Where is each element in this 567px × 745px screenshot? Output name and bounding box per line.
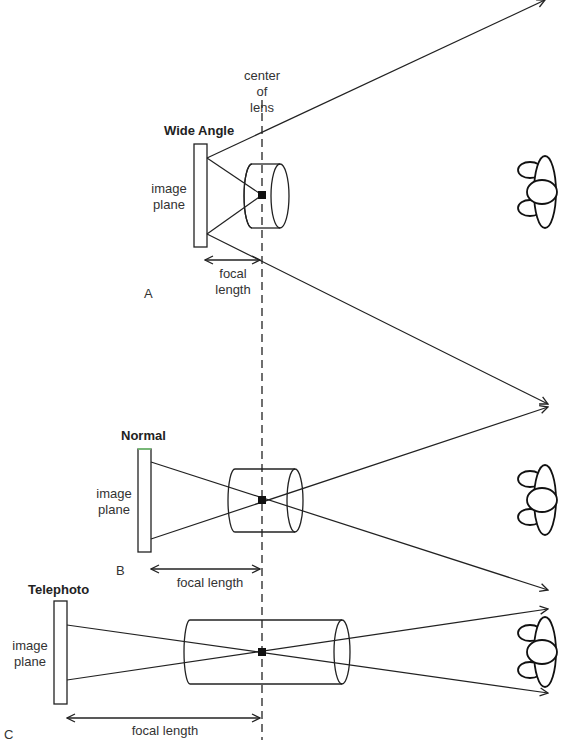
panel-letter-b: B	[116, 563, 125, 578]
panel-title-a: Wide Angle	[164, 123, 234, 138]
center-label-line: center	[237, 68, 287, 84]
lens-center-a	[258, 191, 266, 199]
center-label-line: of	[237, 84, 287, 100]
focal-label-line: focal length	[120, 723, 210, 739]
image-plane-label-line: plane	[6, 654, 54, 670]
panel-letter-a: A	[144, 286, 153, 301]
image-plane-label-line: image	[6, 638, 54, 654]
image-plane-label-c: image plane	[6, 638, 54, 670]
lens-center-c	[258, 648, 266, 656]
image-plane-label-line: plane	[90, 502, 138, 518]
image-plane-label-line: plane	[145, 197, 193, 213]
focal-label-line: focal	[208, 266, 258, 282]
focal-length-label-c: focal length	[120, 723, 210, 739]
wide-angle-panel	[194, 0, 548, 404]
image-plane-label-b: image plane	[90, 486, 138, 518]
image-plane-a	[194, 144, 207, 247]
subject-figure-icon	[518, 156, 557, 228]
subject-figure-icon	[518, 617, 557, 687]
focal-length-label-b: focal length	[165, 575, 255, 591]
image-plane-c	[54, 601, 67, 704]
image-plane-label-line: image	[90, 486, 138, 502]
normal-panel	[138, 407, 548, 590]
image-plane-label-line: image	[145, 181, 193, 197]
lens-center-b	[258, 496, 266, 504]
focal-label-line: length	[208, 282, 258, 298]
telephoto-panel	[54, 601, 548, 718]
panel-letter-c: C	[4, 727, 13, 742]
center-label-line: lens	[237, 100, 287, 116]
focal-length-label-a: focal length	[208, 266, 258, 298]
panel-title-c: Telephoto	[28, 582, 89, 597]
focal-label-line: focal length	[165, 575, 255, 591]
image-plane-label-a: image plane	[145, 181, 193, 213]
center-of-lens-label: center of lens	[237, 68, 287, 116]
panel-title-b: Normal	[121, 428, 166, 443]
subject-figure-icon	[518, 465, 557, 535]
image-plane-b	[138, 449, 151, 552]
